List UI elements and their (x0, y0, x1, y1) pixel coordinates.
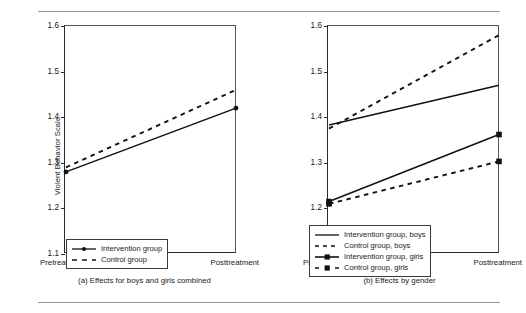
legend-label: Intervention group, boys (344, 230, 425, 239)
chart-panel-a: Violent Behavior Scale 1.61.51.41.31.21.… (0, 18, 263, 293)
panel-b-y-tick-label: 1.6 (311, 22, 322, 30)
legend-key-solid-marker-icon (314, 252, 340, 262)
legend-label: Control group, boys (344, 241, 410, 250)
panel-b-y-tick-mark (324, 72, 328, 73)
x-tick-posttreatment-b: Posttreatment (473, 258, 522, 267)
panel-a-y-tick-mark (61, 254, 65, 255)
series-marker (496, 159, 502, 165)
panel-caption-a: (a) Effects for boys and girls combined (0, 276, 263, 285)
legend-item: Control group, girls (314, 262, 425, 273)
legend-a: Intervention group Control group (66, 239, 168, 269)
panel-a-y-tick-mark (61, 72, 65, 73)
top-divider-rule (38, 11, 500, 12)
legend-key-dashed-icon (314, 241, 340, 251)
series-line (329, 135, 499, 202)
panel-b-y-tick-label: 1.5 (311, 68, 322, 76)
panel-a-y-tick-mark (61, 117, 65, 118)
panel-a-y-tick-mark (61, 163, 65, 164)
panel-a-y-tick-label: 1.3 (48, 159, 59, 167)
panel-b-y-tick-label: 1.3 (311, 159, 322, 167)
chart-panel-b: 1.61.51.41.31.21.1 Pretreatment Posttrea… (263, 18, 526, 293)
series-marker (234, 106, 239, 111)
series-marker (64, 170, 69, 175)
series-line (329, 35, 499, 128)
legend-b: Intervention group, boys Control group, … (309, 225, 431, 277)
plot-area-b: 1.61.51.41.31.21.1 (327, 25, 499, 253)
legend-label: Control group (101, 255, 147, 264)
legend-label: Intervention group (101, 244, 162, 253)
legend-label: Intervention group, girls (344, 252, 423, 261)
legend-item: Intervention group, girls (314, 251, 425, 262)
legend-item: Intervention group, boys (314, 229, 425, 240)
legend-key-dashed-marker-icon (314, 263, 340, 273)
series-marker (496, 132, 502, 138)
panel-a-y-tick-label: 1.2 (48, 204, 59, 212)
y-axis-title-a: Violent Behavior Scale (53, 116, 62, 194)
panel-a-y-tick-label: 1.6 (48, 22, 59, 30)
panel-b-y-tick-mark (324, 163, 328, 164)
series-canvas-b (328, 26, 500, 254)
panel-a-y-tick-label: 1.4 (48, 113, 59, 121)
x-tick-posttreatment-a: Posttreatment (210, 258, 259, 267)
series-line (329, 85, 499, 125)
panel-b-y-tick-label: 1.2 (311, 204, 322, 212)
bottom-divider-rule (38, 302, 500, 303)
panel-b-y-tick-mark (324, 26, 328, 27)
series-line (66, 108, 236, 172)
legend-label: Control group, girls (344, 263, 408, 272)
panel-caption-b: (b) Effects by gender (263, 276, 526, 285)
legend-item: Control group, boys (314, 240, 425, 251)
panel-a-y-tick-label: 1.1 (48, 250, 59, 258)
panel-a-y-tick-mark (61, 208, 65, 209)
panel-a-y-tick-mark (61, 26, 65, 27)
legend-key-dashed-icon (71, 255, 97, 265)
panel-b-y-tick-label: 1.4 (311, 113, 322, 121)
legend-item: Intervention group (71, 243, 162, 254)
plot-area-a: 1.61.51.41.31.21.1 (64, 25, 236, 253)
series-canvas-a (65, 26, 237, 254)
series-marker (326, 201, 332, 207)
series-line (66, 90, 236, 168)
panel-a-y-tick-label: 1.5 (48, 68, 59, 76)
panel-b-y-tick-mark (324, 117, 328, 118)
legend-key-solid-marker-icon (71, 244, 97, 254)
panel-b-y-tick-mark (324, 208, 328, 209)
legend-key-solid-icon (314, 230, 340, 240)
legend-item: Control group (71, 254, 162, 265)
